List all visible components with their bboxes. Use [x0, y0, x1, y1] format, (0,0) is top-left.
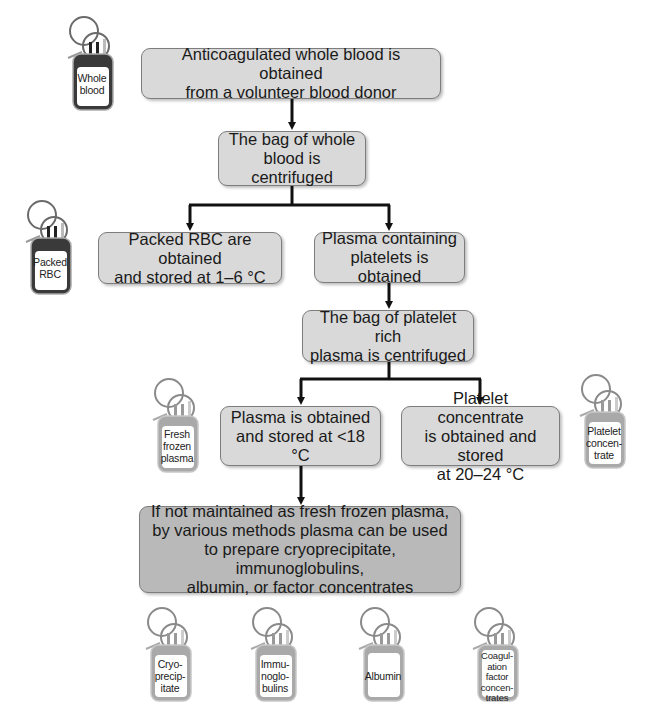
bag-platelet-concentrate: Platelet concen- trate	[578, 370, 630, 470]
bag-whole-blood-label: Whole blood	[66, 72, 118, 96]
step-platelet-rich-plasma: Plasma containing platelets is obtained	[314, 232, 465, 283]
step-plasma-stored: Plasma is obtained and stored at <18 °C	[220, 406, 381, 466]
step-centrifuge-prp-text: The bag of platelet rich plasma is centr…	[309, 308, 467, 365]
bag-cryoprecipitate-label: Cryo- precip- itate	[144, 658, 196, 694]
step-packed-rbc: Packed RBC are obtained and stored at 1–…	[98, 232, 282, 284]
blood-bag-icon	[357, 603, 409, 703]
blood-bag-icon	[24, 196, 76, 296]
bag-immunoglobulins: Immu- noglo- bulins	[249, 603, 301, 703]
bag-immunoglobulins-label: Immu- noglo- bulins	[249, 658, 301, 694]
bag-albumin-label: Albumin	[357, 670, 409, 682]
bag-cryoprecipitate: Cryo- precip- itate	[144, 603, 196, 703]
bag-platelet-concentrate-label: Platelet concen- trate	[578, 425, 630, 461]
bag-packed-rbc-label: Packed RBC	[24, 256, 76, 280]
step-fractionation-text: If not maintained as fresh frozen plasma…	[146, 502, 454, 597]
step-fractionation: If not maintained as fresh frozen plasma…	[139, 506, 461, 593]
step-plasma-stored-text: Plasma is obtained and stored at <18 °C	[227, 408, 374, 465]
bag-packed-rbc: Packed RBC	[24, 196, 76, 296]
step-packed-rbc-text: Packed RBC are obtained and stored at 1–…	[105, 230, 275, 287]
step-centrifuge-whole-blood: The bag of whole blood is centrifuged	[218, 131, 366, 186]
bag-albumin: Albumin	[357, 603, 409, 703]
bag-whole-blood: Whole blood	[66, 12, 118, 112]
bag-fresh-frozen-plasma-label: Fresh frozen plasma	[151, 428, 203, 464]
step-donation: Anticoagulated whole blood is obtained f…	[141, 48, 441, 99]
step-platelet-rich-plasma-text: Plasma containing platelets is obtained	[321, 229, 458, 286]
bag-coagulation-factor-concentrates-label: Coagul- ation factor concen- trates	[471, 651, 523, 704]
step-donation-text: Anticoagulated whole blood is obtained f…	[148, 45, 434, 102]
bag-fresh-frozen-plasma: Fresh frozen plasma	[151, 374, 203, 474]
bag-coagulation-factor-concentrates: Coagul- ation factor concen- trates	[471, 603, 523, 703]
step-centrifuge-prp: The bag of platelet rich plasma is centr…	[302, 310, 474, 362]
blood-bag-icon	[66, 12, 118, 112]
step-centrifuge-whole-blood-text: The bag of whole blood is centrifuged	[225, 130, 359, 187]
step-platelet-concentrate-text: Platelet concentrate is obtained and sto…	[408, 389, 553, 484]
step-platelet-concentrate: Platelet concentrate is obtained and sto…	[401, 406, 560, 466]
